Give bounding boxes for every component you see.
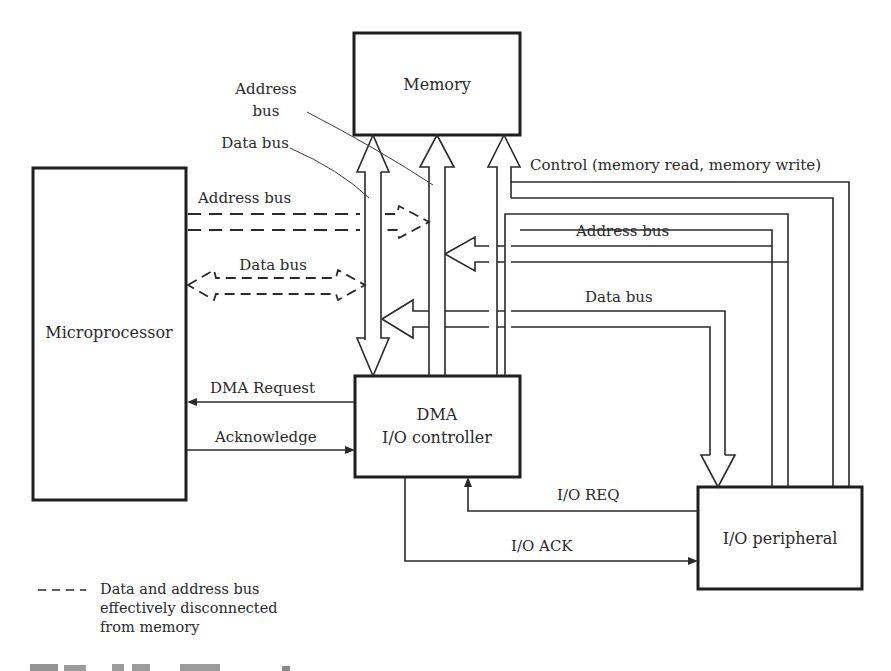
- data-bus-leader: [290, 148, 369, 198]
- dma-label-line2: I/O controller: [382, 428, 492, 447]
- control-bus-label: Control (memory read, memory write): [530, 156, 821, 174]
- cpu-address-bus-label: Address bus: [197, 189, 291, 207]
- microprocessor-label: Microprocessor: [45, 323, 173, 342]
- dma-label-line1: DMA: [417, 405, 458, 424]
- dma-to-peripheral-rails: [505, 214, 788, 487]
- acknowledge-label: Acknowledge: [214, 428, 317, 446]
- io-peripheral-block: I/O peripheral: [698, 487, 862, 589]
- address-bus-callout-line2: bus: [253, 102, 280, 120]
- cpu-data-bus-label: Data bus: [239, 256, 307, 274]
- data-bus-callout: Data bus: [221, 134, 289, 152]
- legend-line3: from memory: [100, 619, 200, 635]
- address-bus-callout-line1: Address: [234, 80, 296, 98]
- vertical-data-bus-arrow: [357, 135, 389, 376]
- legend: Data and address bus effectively disconn…: [38, 581, 278, 635]
- legend-line2: effectively disconnected: [100, 600, 278, 616]
- peripheral-data-down-arrowhead: [701, 455, 735, 487]
- dma-request-label: DMA Request: [210, 379, 315, 397]
- io-ack-label: I/O ACK: [511, 537, 573, 555]
- legend-line1: Data and address bus: [100, 581, 260, 597]
- dma-diagram: Memory Microprocessor DMA I/O controller…: [0, 0, 891, 671]
- io-req-label: I/O REQ: [557, 486, 620, 504]
- dashed-address-bus: [188, 206, 429, 238]
- io-peripheral-label: I/O peripheral: [723, 529, 838, 548]
- periph-data-bus-label: Data bus: [585, 288, 653, 306]
- dma-request-arrowhead: [187, 398, 197, 406]
- clipped-figure-caption: [30, 664, 290, 671]
- microprocessor-block: Microprocessor: [33, 168, 186, 500]
- dashed-data-bus: [188, 270, 365, 300]
- dma-controller-block: DMA I/O controller: [355, 376, 520, 477]
- memory-label: Memory: [403, 75, 470, 94]
- control-bus-line: [511, 182, 849, 487]
- periph-address-bus-label: Address bus: [575, 222, 669, 240]
- control-bus-arrow: [488, 135, 520, 376]
- memory-block: Memory: [354, 33, 520, 135]
